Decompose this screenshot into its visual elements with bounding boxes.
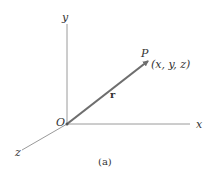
origin-label: O [56,117,65,128]
figure-caption: (a) [98,157,112,167]
point-p-label: P [141,48,148,59]
vector-r-label: r [110,90,115,100]
point-coordinates-label: (x, y, z) [151,59,190,70]
origin-point [66,123,69,126]
axes-drawing [0,0,208,182]
position-vector-diagram: y x z O P (x, y, z) r (a) [0,0,208,182]
x-axis-label: x [196,119,202,130]
z-axis-label: z [15,147,21,158]
y-axis-label: y [62,12,68,23]
position-vector-r [67,61,148,124]
